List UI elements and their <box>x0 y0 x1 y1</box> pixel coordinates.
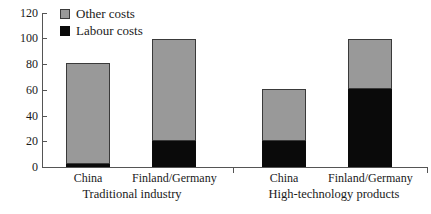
x-axis-group-separator-tick <box>233 167 234 173</box>
bar-segment-labour-costs <box>348 89 392 167</box>
y-axis-tick-label: 100 <box>8 32 38 44</box>
bar-finland-germany-hightech <box>348 39 392 167</box>
x-axis-line <box>42 167 428 168</box>
legend-swatch-labour-costs-icon <box>60 26 70 36</box>
y-axis-tick-label: 20 <box>8 135 38 147</box>
legend-item-labour-costs: Labour costs <box>60 23 143 38</box>
y-axis-tick-label: 0 <box>8 161 38 173</box>
legend-swatch-other-costs-icon <box>60 9 70 19</box>
category-label-china-traditional: China <box>56 172 120 185</box>
bar-china-traditional <box>66 63 110 167</box>
legend-label-other-costs: Other costs <box>76 7 135 20</box>
y-axis-tick-label: 60 <box>8 84 38 96</box>
y-axis-tick <box>42 38 47 39</box>
y-axis-tick-label: 80 <box>8 58 38 70</box>
bar-segment-other-costs <box>152 39 196 142</box>
bar-chart: 120 100 80 60 40 20 0 Other costs Labour… <box>0 0 431 214</box>
category-label-finland-germany-hightech: Finland/Germany <box>328 172 412 185</box>
category-label-china-hightech: China <box>252 172 316 185</box>
bar-segment-labour-costs <box>262 141 306 167</box>
x-axis-end-tick <box>427 167 428 173</box>
group-label-hightech-products: High-technology products <box>246 188 422 201</box>
y-axis-tick <box>42 141 47 142</box>
bar-china-hightech <box>262 89 306 167</box>
bar-segment-labour-costs <box>66 164 110 167</box>
y-axis-tick-label: 40 <box>8 110 38 122</box>
y-axis-tick <box>42 90 47 91</box>
y-axis-tick <box>42 64 47 65</box>
y-axis-tick <box>42 13 47 14</box>
legend: Other costs Labour costs <box>60 6 143 40</box>
legend-item-other-costs: Other costs <box>60 6 143 21</box>
y-axis-tick-label: 120 <box>8 7 38 19</box>
bar-segment-other-costs <box>66 63 110 164</box>
bar-segment-labour-costs <box>152 141 196 167</box>
group-label-traditional-industry: Traditional industry <box>50 188 214 201</box>
legend-label-labour-costs: Labour costs <box>76 24 143 37</box>
bar-segment-other-costs <box>262 89 306 142</box>
category-label-finland-germany-traditional: Finland/Germany <box>132 172 216 185</box>
bar-finland-germany-traditional <box>152 39 196 167</box>
bar-segment-other-costs <box>348 39 392 89</box>
y-axis-tick <box>42 116 47 117</box>
